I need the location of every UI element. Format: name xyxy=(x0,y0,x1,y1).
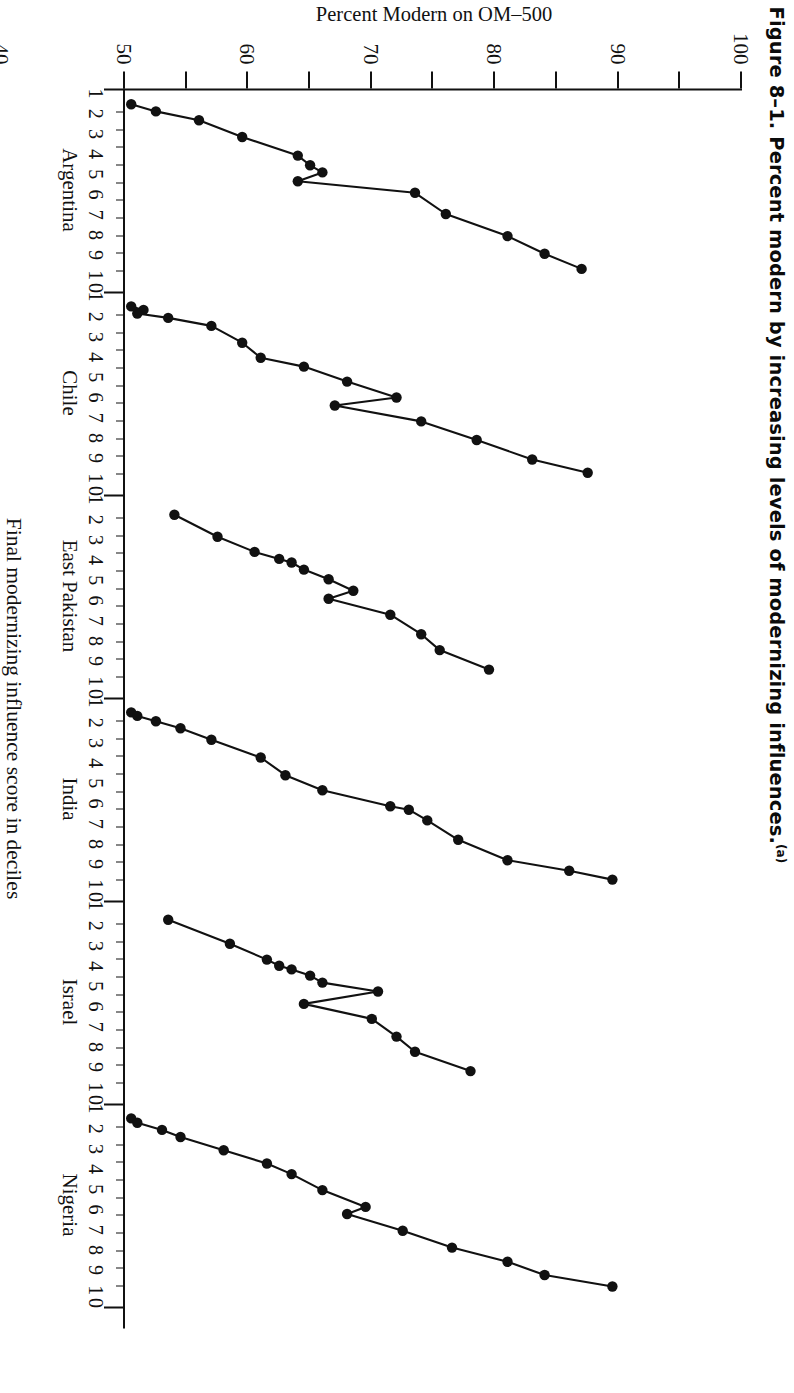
y-tick-20: 20 xyxy=(246,71,248,88)
y-tick-label-100: 100 xyxy=(730,33,751,65)
data-point-israel-10 xyxy=(367,1013,377,1023)
data-point-east-pakistan-5 xyxy=(286,557,296,567)
data-point-chile-8 xyxy=(299,361,309,371)
y-tick-label-90: 90 xyxy=(606,43,627,64)
data-point-nigeria-5 xyxy=(219,1145,229,1155)
series-line-chile xyxy=(131,306,588,472)
data-point-nigeria-6 xyxy=(262,1158,272,1168)
y-tick-60: 60 xyxy=(493,71,495,88)
data-point-israel-4 xyxy=(274,960,284,970)
data-point-argentina-5 xyxy=(293,150,303,160)
data-point-argentina-8 xyxy=(293,176,303,186)
y-tick-label-50: 50 xyxy=(113,43,134,64)
data-point-chile-4 xyxy=(163,312,173,322)
data-point-east-pakistan-6 xyxy=(299,564,309,574)
y-tick-label-70: 70 xyxy=(359,43,380,64)
data-point-israel-9 xyxy=(299,998,309,1008)
data-point-india-4 xyxy=(175,723,185,733)
data-point-east-pakistan-8 xyxy=(348,585,358,595)
data-point-israel-7 xyxy=(317,977,327,987)
data-point-nigeria-8 xyxy=(317,1184,327,1194)
data-point-israel-3 xyxy=(262,954,272,964)
y-tick-label-80: 80 xyxy=(483,43,504,64)
data-point-argentina-7 xyxy=(317,167,327,177)
figure-title-text: Figure 8–1. Percent modern by increasing… xyxy=(765,6,788,843)
data-point-israel-5 xyxy=(286,964,296,974)
data-point-nigeria-9 xyxy=(360,1201,370,1211)
data-point-india-11 xyxy=(422,815,432,825)
data-point-argentina-1 xyxy=(126,99,136,109)
figure-title: Figure 8–1. Percent modern by increasing… xyxy=(765,6,789,863)
data-series-layer xyxy=(36,88,742,1393)
data-point-argentina-11 xyxy=(502,230,512,240)
data-point-east-pakistan-7 xyxy=(323,574,333,584)
y-tick-80: 80 xyxy=(617,71,619,88)
data-point-argentina-12 xyxy=(539,248,549,258)
data-point-argentina-2 xyxy=(151,106,161,116)
data-point-india-9 xyxy=(385,801,395,811)
data-point-chile-10 xyxy=(391,392,401,402)
data-point-east-pakistan-3 xyxy=(249,546,259,556)
data-point-nigeria-10 xyxy=(342,1208,352,1218)
y-tick-50: 50 xyxy=(432,71,434,88)
data-point-east-pakistan-4 xyxy=(274,553,284,563)
data-point-east-pakistan-9 xyxy=(323,593,333,603)
data-point-nigeria-12 xyxy=(447,1242,457,1252)
y-tick-40: 40 xyxy=(370,71,372,88)
data-point-nigeria-4 xyxy=(175,1131,185,1141)
data-point-east-pakistan-11 xyxy=(416,629,426,639)
chart-plot-area: 1009080706050403020100 1 2 3 4 5 6 7 8 9… xyxy=(36,88,742,1393)
data-point-chile-5 xyxy=(206,320,216,330)
data-point-israel-11 xyxy=(391,1031,401,1041)
data-point-nigeria-14 xyxy=(539,1269,549,1279)
data-point-india-12 xyxy=(453,834,463,844)
series-line-israel xyxy=(168,919,470,1070)
data-point-india-3 xyxy=(151,716,161,726)
data-point-india-10 xyxy=(404,804,414,814)
data-point-east-pakistan-13 xyxy=(484,664,494,674)
data-point-chile-12 xyxy=(416,416,426,426)
data-point-east-pakistan-2 xyxy=(212,531,222,541)
data-point-chile-13 xyxy=(472,434,482,444)
rotated-figure-canvas: Figure 8–1. Percent modern by increasing… xyxy=(0,0,794,1393)
data-point-argentina-10 xyxy=(441,208,451,218)
data-point-argentina-4 xyxy=(237,131,247,141)
data-point-india-14 xyxy=(564,865,574,875)
data-point-israel-1 xyxy=(163,914,173,924)
y-tick-70: 70 xyxy=(555,71,557,88)
data-point-chile-6 xyxy=(237,337,247,347)
data-point-israel-8 xyxy=(373,986,383,996)
data-point-chile-11 xyxy=(330,400,340,410)
y-tick-label-40: 40 xyxy=(0,43,10,64)
y-tick-90: 90 xyxy=(678,71,680,88)
series-line-nigeria xyxy=(131,1118,612,1286)
data-point-india-15 xyxy=(607,874,617,884)
x-axis-title: Final modernizing influence score in dec… xyxy=(1,88,26,1328)
series-line-india xyxy=(131,712,612,879)
data-point-india-13 xyxy=(502,855,512,865)
y-tick-0: 0 xyxy=(123,71,125,88)
data-point-nigeria-7 xyxy=(286,1168,296,1178)
y-axis-title: Percent Modern on OM–500 xyxy=(316,3,552,26)
data-point-nigeria-13 xyxy=(502,1256,512,1266)
data-point-argentina-13 xyxy=(576,263,586,273)
y-tick-100: 100 xyxy=(740,71,742,88)
data-point-argentina-3 xyxy=(194,115,204,125)
data-point-israel-13 xyxy=(465,1065,475,1075)
data-point-israel-6 xyxy=(305,970,315,980)
data-point-nigeria-15 xyxy=(607,1281,617,1291)
data-point-india-5 xyxy=(206,734,216,744)
data-point-india-8 xyxy=(317,785,327,795)
data-point-chile-9 xyxy=(342,376,352,386)
y-tick-10: 10 xyxy=(185,71,187,88)
y-tick-label-60: 60 xyxy=(236,43,257,64)
data-point-india-6 xyxy=(256,752,266,762)
data-point-nigeria-3 xyxy=(157,1124,167,1134)
data-point-chile-14 xyxy=(527,454,537,464)
data-point-argentina-9 xyxy=(410,187,420,197)
data-point-chile-15 xyxy=(583,467,593,477)
series-line-argentina xyxy=(131,104,581,269)
data-point-east-pakistan-1 xyxy=(169,509,179,519)
figure-title-footnote-marker: (a) xyxy=(774,843,788,862)
data-point-nigeria-11 xyxy=(398,1225,408,1235)
